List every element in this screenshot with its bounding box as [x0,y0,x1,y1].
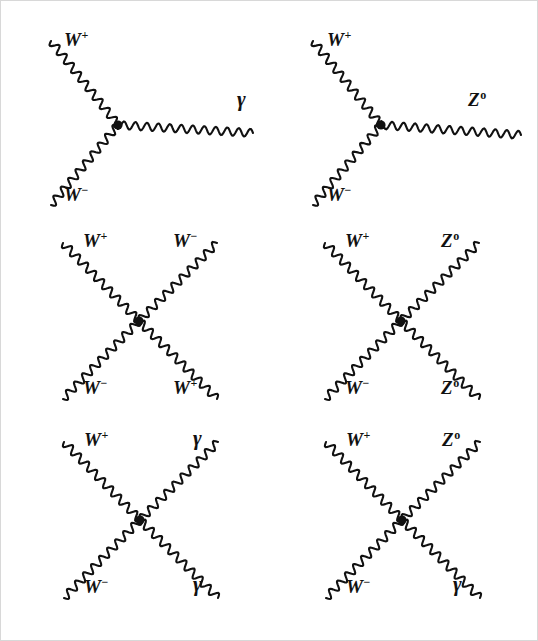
wwww-quartic-vertex-leg-bottom-left-label: W− [83,377,108,397]
particle-symbol: W [346,429,363,450]
wwzg-quartic-vertex-vertex-dot [397,515,406,524]
wwz-triple-vertex-leg-z-out [381,121,521,138]
wwgg-quartic-vertex-vertex-dot [135,515,144,524]
particle-symbol: W [64,29,81,50]
wwzz-quartic-vertex-leg-top-right-label: Zo [441,230,460,250]
particle-symbol: Z [442,429,454,450]
particle-charge-superscript: + [345,28,352,42]
wwz-triple-vertex [311,41,521,206]
wwzz-quartic-vertex-leg-top-left [324,243,401,322]
wwgg-quartic-vertex-leg-bottom-left-label: W− [84,576,109,596]
particle-charge-superscript: − [102,575,109,589]
particle-symbol: Z [441,230,453,251]
wwww-quartic-vertex-leg-top-right [139,242,217,323]
wwg-triple-vertex-leg-photon-out [118,121,253,136]
particle-symbol: γ [193,572,202,596]
wwzg-quartic-vertex-leg-top-left [325,442,402,521]
wwz-triple-vertex-leg-w-plus-in [311,41,379,127]
particle-charge-superscript: − [191,229,198,243]
wwzg-quartic-vertex-leg-bottom-right [400,520,481,598]
wwgg-quartic-vertex-leg-bottom-right [138,520,219,598]
wwz-triple-vertex-vertex-dot [376,120,385,129]
particle-symbol: W [64,184,81,205]
particle-charge-superscript: − [345,183,352,197]
wwww-quartic-vertex-leg-top-left-label: W+ [83,230,108,250]
wwg-triple-vertex-leg-w-plus-in-label: W+ [64,29,89,49]
wwgg-quartic-vertex-leg-bottom-right-label: γ [193,574,202,595]
particle-symbol: W [345,377,362,398]
wwg-triple-vertex-leg-w-plus-in [49,41,117,127]
wwgg-quartic-vertex-leg-top-left [63,442,140,521]
particle-symbol: W [346,576,363,597]
wwgg-quartic-vertex-leg-top-right [140,441,218,522]
particle-charge-superscript: + [102,428,109,442]
particle-charge-superscript: − [363,376,370,390]
wwzg-quartic-vertex-leg-top-right-label: Zo [442,429,461,449]
wwzz-quartic-vertex-leg-top-left-label: W+ [345,230,370,250]
particle-symbol: W [83,230,100,251]
wwgg-quartic-vertex-leg-top-right-label: γ [193,428,202,449]
particle-charge-superscript: − [101,376,108,390]
particle-charge-superscript: o [453,376,459,390]
wwzg-quartic-vertex-leg-top-left-label: W+ [346,429,371,449]
wwg-triple-vertex [49,41,253,206]
particle-symbol: Z [441,377,453,398]
particle-symbol: W [84,429,101,450]
feynman-figure: W+W−γW+W−ZoW+W−W−W+W+ZoW−ZoW+γW−γW+ZoW−γ [0,0,538,641]
wwgg-quartic-vertex-leg-top-left-label: W+ [84,429,109,449]
particle-charge-superscript: − [82,183,89,197]
particle-symbol: γ [193,426,202,450]
feynman-diagram-canvas [1,1,538,641]
particle-symbol: W [84,576,101,597]
particle-symbol: γ [453,572,462,596]
wwz-triple-vertex-leg-z-out-label: Zo [468,89,487,109]
particle-symbol: γ [237,87,246,111]
wwww-quartic-vertex-leg-bottom-right-label: W+ [173,377,198,397]
wwzg-quartic-vertex-leg-bottom-left-label: W− [346,576,371,596]
particle-charge-superscript: − [364,575,371,589]
particle-charge-superscript: + [82,28,89,42]
wwzz-quartic-vertex-leg-bottom-left-label: W− [345,377,370,397]
wwww-quartic-vertex-leg-top-right-label: W− [173,230,198,250]
particle-charge-superscript: o [454,428,460,442]
wwg-triple-vertex-leg-w-minus-in-label: W− [64,184,89,204]
particle-symbol: W [327,29,344,50]
particle-charge-superscript: + [363,229,370,243]
particle-charge-superscript: + [191,376,198,390]
wwz-triple-vertex-leg-w-plus-in-label: W+ [327,29,352,49]
wwz-triple-vertex-leg-w-minus-in-label: W− [327,184,352,204]
wwzz-quartic-vertex-leg-bottom-right-label: Zo [441,377,460,397]
wwg-triple-vertex-vertex-dot [113,120,122,129]
particle-charge-superscript: + [364,428,371,442]
particle-symbol: W [173,230,190,251]
wwzg-quartic-vertex-leg-bottom-right-label: γ [453,574,462,595]
particle-charge-superscript: + [101,229,108,243]
particle-symbol: W [173,377,190,398]
wwzg-quartic-vertex-leg-top-right [402,441,480,522]
wwzz-quartic-vertex-vertex-dot [396,316,405,325]
particle-symbol: Z [468,89,480,110]
particle-symbol: W [327,184,344,205]
particle-symbol: W [345,230,362,251]
wwg-triple-vertex-leg-photon-out-label: γ [237,89,246,110]
wwzz-quartic-vertex-leg-top-right [401,242,479,323]
wwww-quartic-vertex-vertex-dot [134,316,143,325]
particle-symbol: W [83,377,100,398]
particle-charge-superscript: o [453,229,459,243]
wwww-quartic-vertex-leg-top-left [62,243,139,322]
particle-charge-superscript: o [480,88,486,102]
wwzz-quartic-vertex-leg-bottom-right [399,321,480,399]
